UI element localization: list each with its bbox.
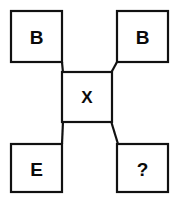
edge-center-to-bottom-left <box>62 121 63 144</box>
node-bottom-right-label: ? <box>137 159 149 180</box>
node-top-right[interactable]: B <box>117 11 168 62</box>
node-bottom-left[interactable]: E <box>11 144 62 192</box>
node-center[interactable]: X <box>62 72 112 122</box>
node-bottom-right[interactable]: ? <box>117 144 168 192</box>
node-diagram: B B X E ? <box>0 0 173 198</box>
node-bottom-left-label: E <box>30 159 43 180</box>
edge-center-to-bottom-right <box>111 121 118 144</box>
node-top-right-label: B <box>136 27 150 48</box>
node-top-left[interactable]: B <box>11 11 62 62</box>
node-top-left-label: B <box>30 27 44 48</box>
node-center-label: X <box>81 88 93 107</box>
diagram-canvas: B B X E ? <box>0 0 173 198</box>
